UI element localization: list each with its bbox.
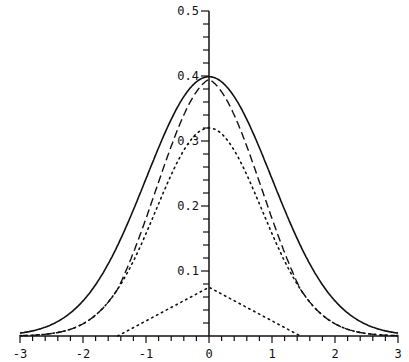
x-tick-label: -2 (76, 347, 90, 361)
x-tick-label: -3 (13, 347, 27, 361)
x-tick-label: -1 (139, 347, 153, 361)
y-tick-label: 0.5 (177, 4, 199, 18)
y-tick-label: 0.3 (177, 134, 199, 148)
chart: -3-2-101230.10.20.30.40.5 (0, 0, 409, 362)
y-tick-label: 0.1 (177, 264, 199, 278)
x-tick-label: 2 (331, 347, 338, 361)
x-tick-label: 1 (268, 347, 275, 361)
y-tick-label: 0.2 (177, 199, 199, 213)
plot-area: -3-2-101230.10.20.30.40.5 (0, 0, 409, 362)
x-tick-label: 3 (394, 347, 401, 361)
y-tick-label: 0.4 (177, 69, 199, 83)
x-tick-label: 0 (205, 347, 212, 361)
